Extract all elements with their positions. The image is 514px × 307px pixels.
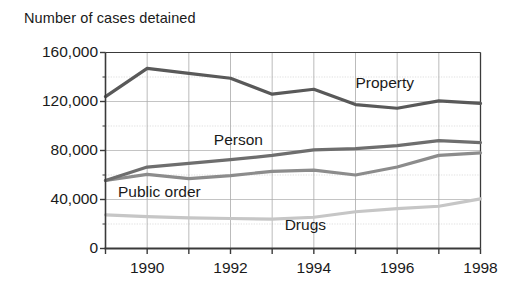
series-label-public-order: Public order: [118, 183, 201, 201]
chart-figure: Number of cases detained 160,000120,0008…: [0, 0, 514, 307]
x-axis-tick-labels: 19901992199419961998: [0, 0, 514, 307]
x-tick-label: 1992: [213, 259, 247, 277]
x-tick-label: 1994: [297, 259, 331, 277]
x-tick-label: 1990: [130, 259, 164, 277]
series-label-property: Property: [356, 74, 415, 92]
series-label-person: Person: [214, 131, 263, 149]
x-tick-label: 1998: [463, 259, 497, 277]
x-tick-label: 1996: [380, 259, 414, 277]
series-label-drugs: Drugs: [285, 216, 326, 234]
